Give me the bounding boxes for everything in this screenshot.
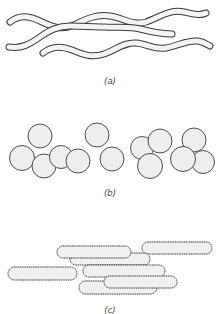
panel-a-spirals: (a) (9, 11, 210, 86)
sphere (10, 146, 35, 171)
spiral-3 (43, 41, 210, 56)
rod (142, 242, 212, 254)
rod (57, 246, 131, 258)
sphere (138, 154, 163, 179)
sphere (85, 123, 109, 147)
panel-c-label: (c) (104, 305, 115, 314)
sphere (66, 149, 90, 173)
figure-canvas: (a) (b) (c) (0, 0, 221, 314)
sphere (171, 147, 196, 172)
rod (8, 267, 77, 280)
rod (104, 276, 177, 288)
sphere (100, 147, 124, 171)
panel-b-spheres (10, 123, 215, 179)
panel-a-label: (a) (104, 76, 116, 86)
panel-b-label: (b) (104, 188, 116, 198)
rod (83, 265, 165, 277)
panel-c-rods (8, 242, 212, 294)
sphere (148, 129, 172, 153)
sphere (28, 124, 52, 148)
